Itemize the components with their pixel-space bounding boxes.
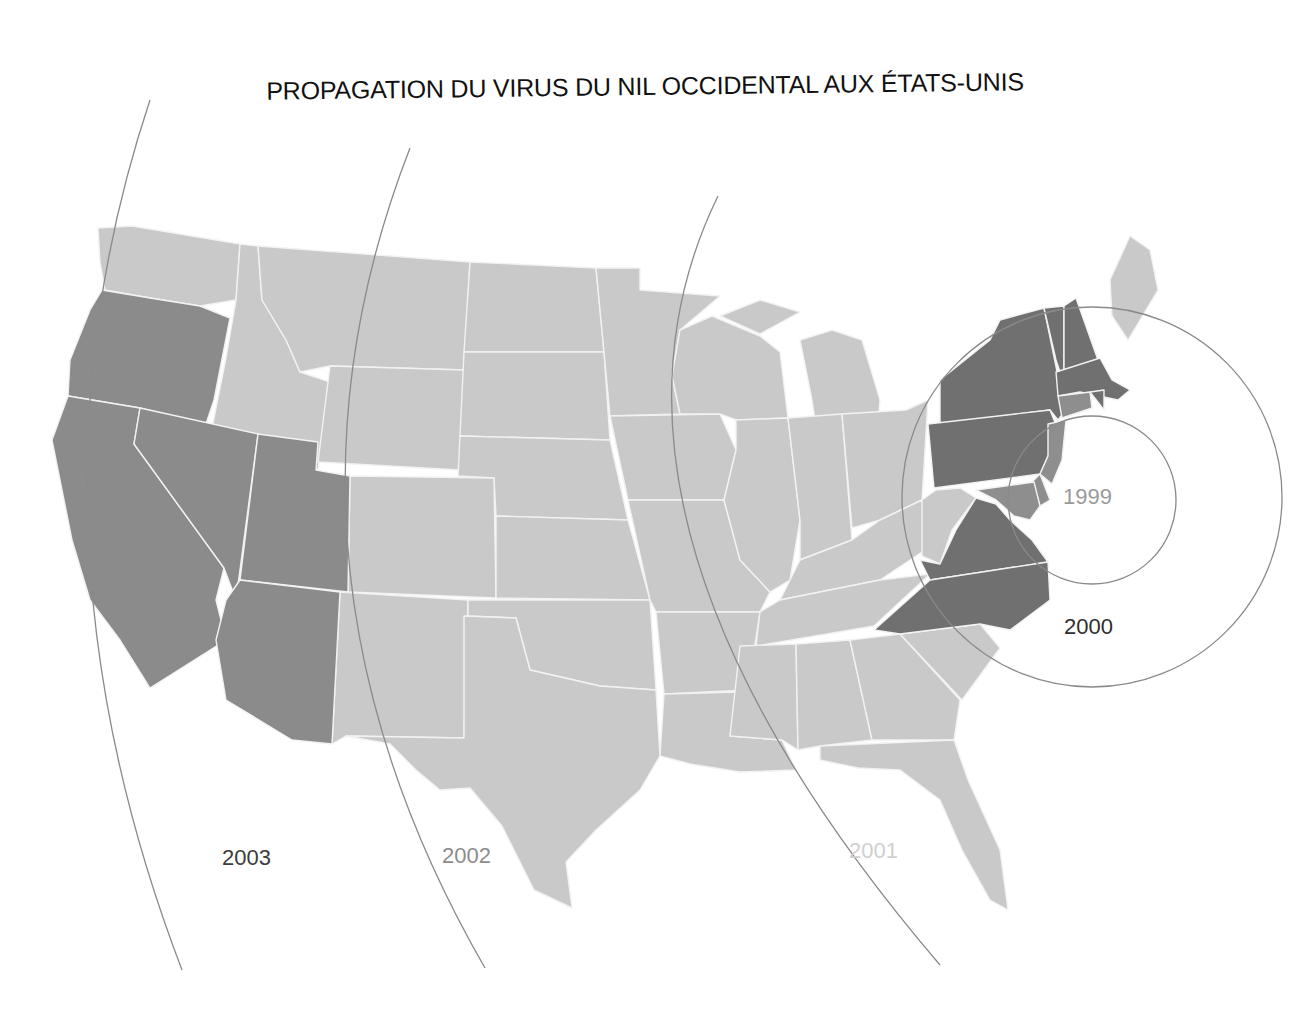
us-map: [0, 0, 1316, 1028]
state-arizona: [216, 580, 340, 744]
states-layer: [52, 226, 1158, 910]
state-maine: [1110, 236, 1158, 340]
state-wyoming: [318, 366, 464, 470]
year-label-2002: 2002: [442, 843, 491, 869]
state-florida: [820, 740, 1008, 910]
state-wisconsin: [672, 316, 788, 420]
state-kansas: [496, 516, 650, 600]
year-label-2000: 2000: [1064, 614, 1113, 640]
state-colorado: [348, 476, 496, 598]
state-new-mexico: [332, 592, 468, 744]
state-south-dakota: [460, 352, 610, 440]
year-label-1999: 1999: [1063, 484, 1112, 510]
year-label-2001: 2001: [849, 838, 898, 864]
year-label-2003: 2003: [222, 845, 271, 871]
state-north-dakota: [464, 262, 604, 352]
state-connecticut: [1058, 392, 1092, 418]
state-mississippi: [730, 644, 798, 750]
